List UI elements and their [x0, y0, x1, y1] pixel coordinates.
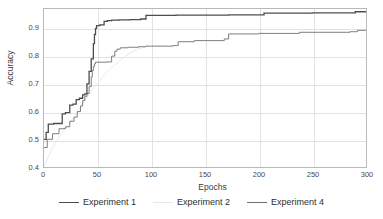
- legend-item[interactable]: Experiment 2: [153, 197, 230, 207]
- legend-item[interactable]: Experiment 4: [247, 197, 324, 207]
- x-tick-label: 150: [199, 171, 212, 179]
- plot-area: [43, 8, 367, 168]
- series-lines: [44, 9, 366, 167]
- chart-figure: 0.40.50.60.70.80.9 050100150200250300 Ac…: [0, 0, 383, 219]
- y-axis-title: Accuracy: [5, 38, 15, 98]
- y-tick-label: 0.5: [29, 136, 39, 144]
- legend-label: Experiment 4: [271, 197, 324, 207]
- chart-legend: Experiment 1Experiment 2Experiment 4: [0, 197, 383, 207]
- legend-label: Experiment 2: [177, 197, 230, 207]
- legend-line-swatch: [247, 202, 267, 203]
- y-tick-label: 0.9: [29, 24, 39, 32]
- legend-label: Experiment 1: [83, 197, 136, 207]
- y-tick-label: 0.8: [29, 52, 39, 60]
- x-axis-title-text: Epochs: [198, 182, 226, 192]
- x-axis-title: Epochs: [0, 182, 383, 192]
- y-tick-label: 0.6: [29, 108, 39, 116]
- x-tick-label: 0: [41, 171, 45, 179]
- x-tick-label: 250: [307, 171, 320, 179]
- x-tick-label: 100: [145, 171, 158, 179]
- legend-line-swatch: [59, 202, 79, 203]
- legend-line-swatch: [153, 202, 173, 203]
- legend-item[interactable]: Experiment 1: [59, 197, 136, 207]
- series-line: [44, 47, 146, 167]
- y-tick-label: 0.7: [29, 80, 39, 88]
- x-tick-label: 200: [253, 171, 266, 179]
- x-tick-label: 300: [361, 171, 374, 179]
- x-tick-label: 50: [93, 171, 101, 179]
